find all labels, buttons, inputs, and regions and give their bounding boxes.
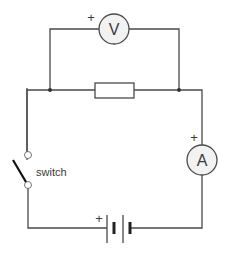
battery: + <box>95 211 130 243</box>
voltmeter: V + <box>87 10 129 44</box>
junction-right <box>177 88 181 92</box>
left-top-wire <box>27 90 95 160</box>
junction-left <box>48 88 52 92</box>
battery-polarity: + <box>95 211 103 226</box>
voltmeter-symbol: V <box>109 21 120 38</box>
switch-bottom-terminal <box>25 182 32 189</box>
voltmeter-right-wire <box>129 29 179 90</box>
voltmeter-left-wire <box>50 29 99 90</box>
switch: switch <box>13 152 67 189</box>
switch-label: switch <box>36 166 67 178</box>
ammeter-polarity: + <box>190 130 198 145</box>
switch-lever <box>13 160 26 182</box>
voltmeter-polarity: + <box>87 10 95 25</box>
circuit-diagram: V + switch A + + <box>0 0 226 255</box>
resistor <box>95 83 134 98</box>
right-bottom-wire <box>130 175 202 228</box>
ammeter-symbol: A <box>197 152 208 169</box>
switch-top-terminal <box>25 152 32 159</box>
